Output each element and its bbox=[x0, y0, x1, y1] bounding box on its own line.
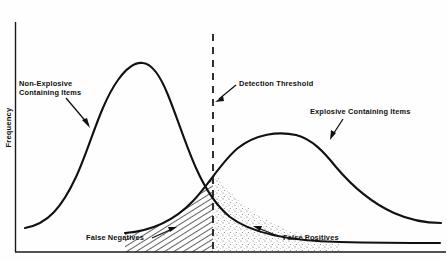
chart-canvas bbox=[0, 0, 447, 261]
annotation-non-explosive-line2: Containing Items bbox=[19, 88, 81, 97]
leader-arrow-non-explosive bbox=[66, 98, 90, 128]
annotation-false-positives: False Positives bbox=[283, 233, 339, 242]
annotation-explosive: Explosive Containing Items bbox=[310, 107, 410, 116]
annotation-non-explosive-line1: Non-Explosive bbox=[19, 79, 72, 88]
leader-arrow-threshold bbox=[215, 85, 236, 102]
y-axis-label: Frequency bbox=[4, 96, 13, 160]
annotation-detection-threshold: Detection Threshold bbox=[239, 79, 313, 88]
curve-explosive bbox=[125, 133, 441, 233]
annotation-false-negatives: False Negatives bbox=[86, 233, 144, 242]
annotation-non-explosive: Non-ExplosiveContaining Items bbox=[19, 79, 81, 97]
leader-arrow-explosive bbox=[330, 119, 343, 140]
chart-figure: Frequency Non-ExplosiveContaining Items … bbox=[0, 0, 447, 261]
